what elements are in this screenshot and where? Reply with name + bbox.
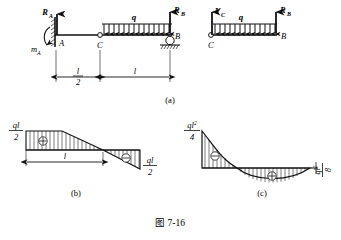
moment-right-value-sup: 2 (312, 165, 318, 168)
label-q-main: q (132, 12, 137, 22)
dimension-label-l-half-num: l (77, 66, 80, 76)
shear-right-value-num: ql (147, 155, 154, 165)
hinge-C (98, 33, 103, 38)
label-point-C-segment: C (208, 40, 214, 50)
distributed-load-main (102, 24, 172, 34)
shear-right-value-den: 2 (148, 167, 153, 177)
panel-c-label: (c) (257, 188, 267, 198)
label-RB-segment: R (279, 5, 286, 15)
label-RA-sub: A (48, 13, 53, 19)
label-RA: R (41, 7, 48, 17)
shear-negative-sign (122, 154, 130, 162)
panel-c: ql2 4 ql2 8 (c) (184, 120, 333, 198)
shear-dimension-l: l (26, 150, 103, 166)
label-RB-segment-sub: B (286, 11, 291, 17)
shear-left-value-den: 2 (14, 132, 19, 142)
figure-7-16-svg: R A m A A C B q R B l 2 l (0, 0, 341, 240)
dimension-lines: l 2 l (56, 50, 170, 87)
main-beam-group (44, 12, 180, 49)
panel-a-label: (a) (165, 95, 175, 105)
shear-right-value: ql 2 (143, 155, 157, 177)
moment-positive-sign (268, 172, 276, 180)
moment-right-value: ql2 8 (312, 163, 333, 177)
distributed-load-segment (213, 24, 277, 34)
moment-left-value-num-group: ql2 (187, 120, 197, 130)
shear-dimension-label: l (64, 151, 67, 161)
fixed-support-A (51, 17, 55, 47)
moment-right-value-num-group: ql2 (312, 165, 322, 174)
label-point-B-segment: B (281, 31, 286, 41)
dimension-label-l: l (134, 66, 137, 76)
label-RB: R (173, 5, 180, 15)
label-point-A: A (58, 38, 65, 48)
label-point-C: C (97, 40, 103, 50)
label-mA-sub: A (36, 50, 41, 56)
panel-b-label: (b) (71, 188, 81, 198)
shear-positive-sign (39, 137, 47, 145)
figure-container: R A m A A C B q R B l 2 l (0, 0, 341, 240)
moment-left-value-den: 4 (190, 132, 195, 142)
label-RB-sub: B (180, 11, 185, 17)
shear-positive-outline (26, 131, 103, 150)
panel-b: ql 2 ql 2 l (b) (9, 120, 157, 198)
shear-left-value-num: ql (13, 120, 20, 130)
shear-left-value: ql 2 (9, 120, 23, 142)
figure-caption: 图 7-16 (155, 218, 185, 228)
moment-mA-arc (44, 27, 50, 45)
moment-negative-sign (211, 152, 219, 160)
moment-left-value-sup: 2 (194, 120, 197, 126)
moment-negative-outline (202, 131, 237, 168)
moment-left-value: ql2 4 (184, 120, 200, 142)
dimension-label-l-half-den: 2 (76, 77, 81, 87)
shear-negative-outline (103, 150, 140, 169)
label-YC-sub: C (221, 12, 226, 18)
label-point-B: B (175, 31, 180, 41)
moment-right-value-den: 8 (324, 168, 333, 172)
panel-a: R A m A A C B q R B l 2 l (31, 5, 291, 105)
label-q-segment: q (239, 12, 244, 22)
